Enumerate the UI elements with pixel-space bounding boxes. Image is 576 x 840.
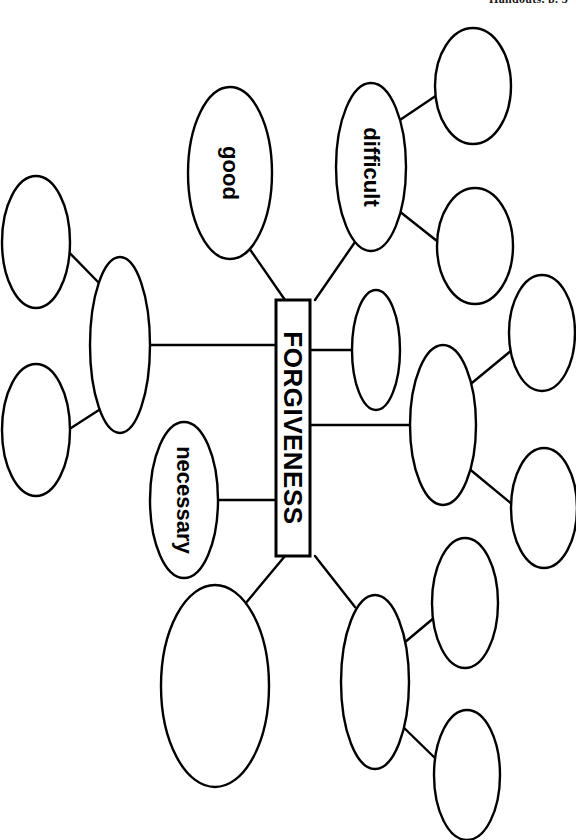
node-label-difficult: difficult — [359, 127, 384, 207]
node-shape-l3 — [2, 364, 70, 496]
connector-r2-to-r3 — [467, 350, 512, 387]
node-l1[interactable] — [90, 257, 150, 433]
node-b2[interactable] — [341, 595, 409, 769]
node-r4[interactable] — [511, 448, 576, 568]
node-r1[interactable] — [352, 290, 400, 410]
concept-map-canvas: gooddifficultnecessary FORGIVENESS — [0, 0, 576, 840]
node-label-necessary: necessary — [172, 446, 197, 554]
node-shape-r1 — [352, 290, 400, 410]
node-shape-l1 — [90, 257, 150, 433]
connector-center-to-difficult — [315, 242, 355, 300]
node-shape-b2 — [341, 595, 409, 769]
connector-r2-to-r4 — [467, 467, 513, 505]
center-node-layer: FORGIVENESS — [276, 300, 310, 556]
node-shape-l2 — [2, 176, 70, 308]
node-d2[interactable] — [437, 188, 513, 304]
node-shape-r2 — [410, 345, 476, 505]
node-shape-b1 — [161, 585, 269, 787]
connector-center-to-good — [249, 248, 285, 300]
node-shape-r3 — [509, 275, 575, 391]
connector-center-to-b1 — [245, 556, 285, 604]
worksheet-page: Handouts, p. 3 gooddifficultnecessary FO… — [0, 0, 576, 840]
node-d1[interactable] — [435, 28, 511, 144]
center-node[interactable]: FORGIVENESS — [276, 300, 310, 556]
node-label-good: good — [218, 146, 243, 200]
node-l3[interactable] — [2, 364, 70, 496]
node-b1[interactable] — [161, 585, 269, 787]
node-good[interactable]: good — [188, 87, 272, 259]
node-difficult[interactable]: difficult — [336, 83, 406, 251]
node-shape-d1 — [435, 28, 511, 144]
node-l2[interactable] — [2, 176, 70, 308]
connector-center-to-b2 — [315, 556, 355, 607]
node-r2[interactable] — [410, 345, 476, 505]
node-necessary[interactable]: necessary — [150, 422, 218, 578]
node-shape-b3 — [432, 538, 498, 668]
node-b3[interactable] — [432, 538, 498, 668]
node-shape-d2 — [437, 188, 513, 304]
node-r3[interactable] — [509, 275, 575, 391]
node-shape-r4 — [511, 448, 576, 568]
center-node-label: FORGIVENESS — [278, 331, 308, 524]
node-shape-b4 — [434, 710, 500, 840]
node-b4[interactable] — [434, 710, 500, 840]
